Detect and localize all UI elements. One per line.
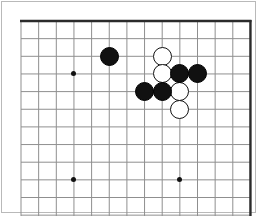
go-diagram-figure (0, 0, 259, 216)
white-stone[interactable] (153, 47, 172, 66)
go-board[interactable] (0, 0, 259, 216)
white-stone[interactable] (170, 100, 189, 119)
board-grid (0, 0, 259, 216)
black-stone[interactable] (153, 82, 172, 101)
black-stone[interactable] (100, 47, 119, 66)
grid-lines (21, 21, 250, 216)
board-edges (20, 20, 251, 216)
white-stone[interactable] (153, 64, 172, 83)
black-stone[interactable] (135, 82, 154, 101)
